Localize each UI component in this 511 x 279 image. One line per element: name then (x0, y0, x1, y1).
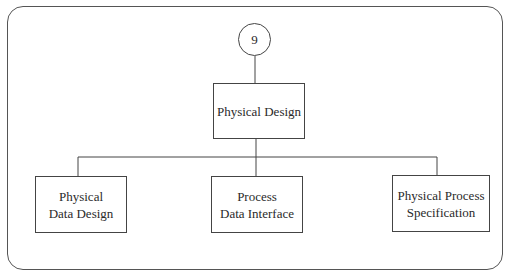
child-node-process-data-interface: Process Data Interface (211, 176, 303, 233)
step-number-label: 9 (251, 32, 258, 48)
child-node-label: Physical Data Design (49, 188, 114, 222)
child-node-physical-data-design: Physical Data Design (35, 176, 127, 233)
root-node-label: Physical Design (217, 103, 301, 120)
root-node-physical-design: Physical Design (213, 83, 305, 139)
child-node-physical-process-specification: Physical Process Specification (392, 175, 490, 232)
child-node-label: Physical Process Specification (397, 187, 484, 221)
step-number-marker: 9 (238, 23, 271, 56)
child-node-label: Process Data Interface (220, 188, 294, 222)
